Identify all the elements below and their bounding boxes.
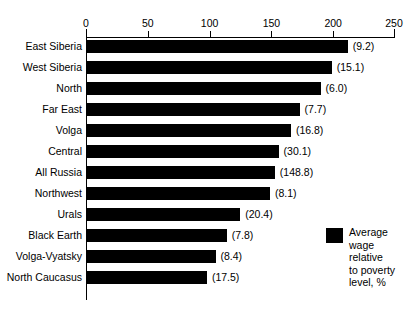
bar xyxy=(87,124,291,137)
bar-row: (20.4) xyxy=(86,206,395,227)
x-axis-label-200: 200 xyxy=(324,18,342,29)
bar xyxy=(87,103,300,116)
bar-row: (9.2) xyxy=(86,38,395,59)
bar-value-label: (8.1) xyxy=(275,186,297,200)
x-axis-label-0: 0 xyxy=(83,18,89,29)
x-axis-label-150: 150 xyxy=(263,18,281,29)
category-axis: East SiberiaWest SiberiaNorthFar EastVol… xyxy=(0,38,82,290)
category-label: Central xyxy=(0,144,82,158)
bar xyxy=(87,187,270,200)
bar-row: (15.1) xyxy=(86,59,395,80)
x-axis-label-250: 250 xyxy=(385,18,403,29)
x-axis-tick-250 xyxy=(394,29,395,38)
category-label: Black Earth xyxy=(0,228,82,242)
category-label: Far East xyxy=(0,102,82,116)
legend-label-line-4: to poverty xyxy=(349,264,415,277)
category-label: East Siberia xyxy=(0,39,82,53)
x-axis-tick-50 xyxy=(148,31,149,38)
bar xyxy=(87,250,216,263)
category-label: Volga-Vyatsky xyxy=(0,249,82,263)
bar-row: (8.1) xyxy=(86,185,395,206)
bar-row: (7.7) xyxy=(86,101,395,122)
bar-row: (148.8) xyxy=(86,164,395,185)
x-axis-label-100: 100 xyxy=(201,18,219,29)
bar-row: (16.8) xyxy=(86,122,395,143)
bar-value-label: (30.1) xyxy=(284,144,311,158)
bar xyxy=(87,208,240,221)
legend-label-line-1: Average xyxy=(349,226,415,239)
bar-value-label: (8.4) xyxy=(221,249,243,263)
bar-value-label: (15.1) xyxy=(337,60,364,74)
legend-swatch-average-wage xyxy=(326,228,343,243)
category-label: Volga xyxy=(0,123,82,137)
x-axis-label-50: 50 xyxy=(142,18,154,29)
bar xyxy=(87,82,321,95)
x-axis-tick-0 xyxy=(86,29,87,38)
bar-value-label: (17.5) xyxy=(212,270,239,284)
category-label: Northwest xyxy=(0,186,82,200)
category-label: Urals xyxy=(0,207,82,221)
bar-row: (6.0) xyxy=(86,80,395,101)
bar-value-label: (148.8) xyxy=(280,165,313,179)
x-axis-tick-200 xyxy=(333,31,334,38)
category-label: West Siberia xyxy=(0,60,82,74)
bar xyxy=(87,40,348,53)
legend-label-line-2: wage xyxy=(349,239,415,252)
x-axis: 0 50 100 150 200 250 xyxy=(86,14,395,38)
bar-value-label: (6.0) xyxy=(326,81,348,95)
legend-label-line-5: level, % xyxy=(349,276,415,289)
bar-value-label: (16.8) xyxy=(296,123,323,137)
x-axis-tick-100 xyxy=(210,31,211,38)
category-label: North xyxy=(0,81,82,95)
bar-value-label: (7.7) xyxy=(305,102,327,116)
bar-value-label: (7.8) xyxy=(232,228,254,242)
bar-value-label: (20.4) xyxy=(245,207,272,221)
x-axis-tick-150 xyxy=(271,31,272,38)
bar xyxy=(87,166,275,179)
bar-chart: 0 50 100 150 200 250 East SiberiaWest Si… xyxy=(0,0,418,316)
category-label: All Russia xyxy=(0,165,82,179)
bar xyxy=(87,61,332,74)
bar xyxy=(87,145,279,158)
legend-label-average-wage: Average wage relative to poverty level, … xyxy=(349,226,415,289)
bar xyxy=(87,271,207,284)
legend-label-line-3: relative xyxy=(349,251,415,264)
bar-value-label: (9.2) xyxy=(353,39,375,53)
category-label: North Caucasus xyxy=(0,270,82,284)
bar xyxy=(87,229,227,242)
bar-row: (30.1) xyxy=(86,143,395,164)
